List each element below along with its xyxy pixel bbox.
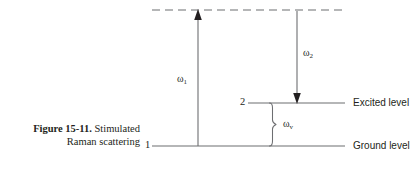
omega-2-subscript: 2 — [310, 52, 314, 60]
figure-panel: Figure 15-11. Stimulated Raman scatterin… — [0, 0, 413, 169]
energy-level-diagram — [0, 0, 413, 169]
excited-level-number: 2 — [240, 97, 245, 108]
omega-2-label: ω2 — [303, 48, 313, 60]
omega-1-label: ω1 — [177, 74, 187, 86]
omega-v-symbol: ω — [283, 118, 290, 129]
omega-1-subscript: 1 — [184, 78, 188, 86]
ground-level-number: 1 — [145, 140, 150, 151]
omega-1-symbol: ω — [177, 73, 184, 84]
pump-arrow-head — [194, 9, 202, 20]
omega-v-subscript: v — [290, 123, 294, 131]
excited-level-label: Excited level — [353, 98, 409, 108]
omega-v-label: ωv — [283, 119, 293, 131]
ground-level-label: Ground level — [353, 141, 410, 151]
omega-2-symbol: ω — [303, 47, 310, 58]
vibrational-brace — [270, 103, 277, 146]
stokes-arrow-head — [293, 93, 301, 104]
